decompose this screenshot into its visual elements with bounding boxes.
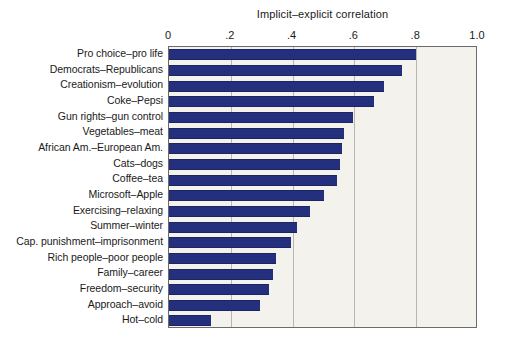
bar <box>169 96 374 107</box>
implicit-explicit-correlation-chart: Implicit–explicit correlation 0.2.4.6.81… <box>0 0 510 342</box>
x-tick-label: .6 <box>349 29 358 41</box>
bar <box>169 175 337 186</box>
bar <box>169 159 340 170</box>
y-category-label: Coke–Pepsi <box>0 95 163 106</box>
bar-row <box>169 110 476 126</box>
x-tick-label: 0 <box>165 29 171 41</box>
bar <box>169 190 324 201</box>
y-category-label: Cap. punishment–imprisonment <box>0 236 163 247</box>
bar <box>169 112 353 123</box>
bar <box>169 49 416 60</box>
y-category-label: Exercising–relaxing <box>0 205 163 216</box>
y-axis-category-labels: Pro choice–pro lifeDemocrats–Republicans… <box>0 46 163 328</box>
bar <box>169 284 269 295</box>
y-category-label: Vegetables–meat <box>0 126 163 137</box>
bar-row <box>169 157 476 173</box>
bar-row <box>169 298 476 314</box>
y-category-label: African Am.–European Am. <box>0 142 163 153</box>
bar-row <box>169 204 476 220</box>
y-category-label: Family–career <box>0 267 163 278</box>
x-tick-label: .8 <box>411 29 420 41</box>
bar-row <box>169 282 476 298</box>
chart-title: Implicit–explicit correlation <box>168 8 477 20</box>
bar <box>169 237 291 248</box>
bar-row <box>169 78 476 94</box>
y-category-label: Gun rights–gun control <box>0 111 163 122</box>
bar <box>169 206 310 217</box>
bar-row <box>169 63 476 79</box>
bar <box>169 300 260 311</box>
bar <box>169 222 297 233</box>
bar <box>169 269 273 280</box>
y-category-label: Coffee–tea <box>0 173 163 184</box>
y-category-label: Hot–cold <box>0 314 163 325</box>
bar <box>169 65 402 76</box>
bar <box>169 81 384 92</box>
bar-series <box>169 47 476 327</box>
bar-row <box>169 251 476 267</box>
bar-row <box>169 313 476 328</box>
y-category-label: Rich people–poor people <box>0 252 163 263</box>
bar-row <box>169 266 476 282</box>
y-category-label: Creationism–evolution <box>0 79 163 90</box>
y-category-label: Democrats–Republicans <box>0 64 163 75</box>
bar-row <box>169 94 476 110</box>
bar-row <box>169 188 476 204</box>
x-tick-label: 1.0 <box>469 29 484 41</box>
bar <box>169 253 276 264</box>
y-category-label: Freedom–security <box>0 283 163 294</box>
bar-row <box>169 141 476 157</box>
bar-row <box>169 235 476 251</box>
bar <box>169 315 211 326</box>
bar <box>169 143 342 154</box>
bar-row <box>169 219 476 235</box>
y-category-label: Microsoft–Apple <box>0 189 163 200</box>
y-category-label: Approach–avoid <box>0 299 163 310</box>
plot-area <box>168 46 477 328</box>
y-category-label: Summer–winter <box>0 220 163 231</box>
y-category-label: Pro choice–pro life <box>0 48 163 59</box>
y-category-label: Cats–dogs <box>0 158 163 169</box>
bar-row <box>169 125 476 141</box>
bar-row <box>169 47 476 63</box>
bar <box>169 128 344 139</box>
x-axis-tick-labels: 0.2.4.6.81.0 <box>0 29 510 43</box>
x-tick-label: .2 <box>225 29 234 41</box>
bar-row <box>169 172 476 188</box>
x-tick-label: .4 <box>287 29 296 41</box>
